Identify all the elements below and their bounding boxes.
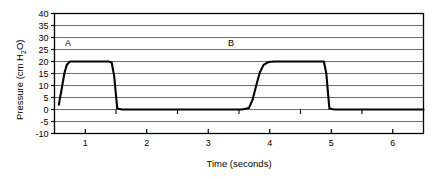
y-tick-label: 0	[43, 105, 48, 115]
y-tick-label: -10	[35, 129, 48, 139]
x-tick-label: 5	[329, 138, 334, 148]
y-tick-label: 25	[38, 45, 48, 55]
x-tick-label: 1	[83, 138, 88, 148]
x-axis-title: Time (seconds)	[206, 158, 271, 169]
y-tick-label: 35	[38, 21, 48, 31]
x-tick-label: 3	[206, 138, 211, 148]
y-tick-label: 10	[38, 81, 48, 91]
pressure-time-chart: Pressure (cm H2O) -10-50510152025303540 …	[0, 0, 436, 179]
y-tick-label: 30	[38, 33, 48, 43]
y-axis-title-main: Pressure (cm H	[14, 54, 25, 120]
y-axis-title-tail: O)	[14, 40, 25, 51]
y-tick-label: 40	[38, 9, 48, 19]
y-tick-label: 15	[38, 69, 48, 79]
y-tick-label: 5	[43, 93, 48, 103]
x-tick-label: 4	[267, 138, 272, 148]
annotation-b: B	[228, 38, 234, 48]
chart-background	[0, 0, 436, 179]
annotation-a: A	[65, 38, 71, 48]
x-tick-label: 6	[390, 138, 395, 148]
y-tick-label: -5	[40, 117, 48, 127]
x-tick-label: 2	[144, 138, 149, 148]
chart-figure: Pressure (cm H2O) -10-50510152025303540 …	[0, 0, 436, 179]
y-tick-label: 20	[38, 57, 48, 67]
